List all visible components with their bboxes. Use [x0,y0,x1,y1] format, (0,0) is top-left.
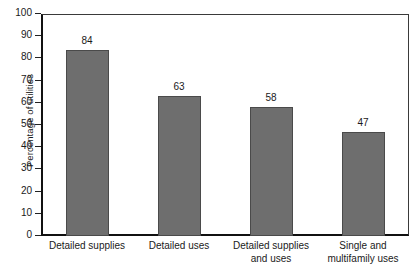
bar-value-label: 63 [158,81,201,93]
bar-value-label: 47 [342,117,385,129]
y-tick-label: 10 [2,207,32,219]
y-tick-label: 50 [2,118,32,130]
x-axis-label-line: and uses [225,253,317,266]
x-axis-labels: Detailed suppliesDetailed usesDetailed s… [41,240,409,276]
bar-value-label: 84 [66,35,109,47]
y-tick-label: 60 [2,96,32,108]
y-tick-label: 20 [2,185,32,197]
y-tick-label: 70 [2,74,32,86]
x-axis-label: Detailed uses [133,240,225,253]
y-tick-label: 90 [2,29,32,41]
x-axis-label-line: multifamily uses [317,253,409,266]
bar [250,107,293,236]
y-tick-label: 0 [2,229,32,241]
x-axis-label: Detailed supplies [41,240,133,253]
y-tick-label: 30 [2,162,32,174]
x-axis-label-line: Detailed supplies [49,240,125,251]
bar [158,96,201,236]
bar-value-label: 58 [250,92,293,104]
bar-group: 84 [66,14,109,236]
bar-group: 47 [342,14,385,236]
y-tick-label: 40 [2,140,32,152]
bar-group: 58 [250,14,293,236]
y-tick-label: 80 [2,51,32,63]
bar [66,50,109,236]
bar-group: 63 [158,14,201,236]
x-axis-label-line: Detailed supplies [233,240,309,251]
bars-layer: 84635847 [41,14,409,236]
x-axis-label-line: Single and [339,240,386,251]
bar [342,132,385,236]
y-tick-label: 100 [2,7,32,19]
bar-chart: Percentage of utilities 0102030405060708… [0,0,420,279]
x-axis-label: Single andmultifamily uses [317,240,409,265]
x-axis-label: Detailed suppliesand uses [225,240,317,265]
x-axis-label-line: Detailed uses [149,240,210,251]
